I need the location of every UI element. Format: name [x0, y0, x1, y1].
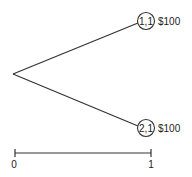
node-2-1: 2,1 $100 [138, 120, 181, 137]
scale-label-start: 0 [11, 159, 17, 170]
node-payoff: $100 [158, 123, 181, 134]
time-scale: 0 1 [11, 149, 154, 170]
scale-label-end: 1 [148, 159, 154, 170]
node-payoff: $100 [158, 16, 181, 27]
decision-tree-diagram: 1,1 $100 2,1 $100 0 1 [0, 0, 192, 177]
node-label: 2,1 [139, 123, 153, 134]
node-1-1: 1,1 $100 [138, 13, 181, 30]
node-label: 1,1 [139, 16, 153, 27]
branch-upper [13, 23, 138, 74]
branch-lower [13, 74, 138, 126]
